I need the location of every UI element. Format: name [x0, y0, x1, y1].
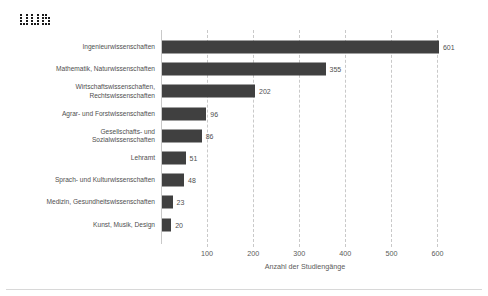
category-label: Medizin, Gesundheitswissenschaften	[10, 198, 155, 206]
x-tick-label: 300	[293, 249, 305, 258]
bar	[162, 85, 255, 98]
bar	[162, 152, 186, 165]
category-label: Sprach- und Kulturwissenschaften	[10, 176, 155, 184]
bar-rows: Ingenieurwissenschaften601Mathematik, Na…	[0, 0, 488, 296]
bar-value-label: 96	[210, 110, 218, 117]
figure-bottom-rule	[6, 289, 482, 290]
bar-value-label: 86	[206, 132, 214, 139]
bar-value-label: 51	[190, 155, 198, 162]
chart-figure: Ingenieurwissenschaften601Mathematik, Na…	[0, 0, 488, 296]
x-tick-mark	[391, 244, 392, 247]
bar	[162, 218, 171, 231]
category-label: Mathematik, Naturwissenschaften	[10, 65, 155, 73]
x-tick-label: 600	[431, 249, 443, 258]
category-label: Agrar- und Forstwissenschaften	[10, 109, 155, 117]
x-tick-label: 200	[247, 249, 259, 258]
category-label: Wirtschaftswissenschaften, Rechtswissens…	[10, 83, 155, 99]
category-label: Ingenieurwissenschaften	[10, 43, 155, 51]
bar-row: Agrar- und Forstwissenschaften96	[0, 103, 488, 125]
bar-row: Mathematik, Naturwissenschaften355	[0, 58, 488, 80]
bar-value-label: 48	[188, 177, 196, 184]
x-tick-label: 400	[339, 249, 351, 258]
bar	[162, 174, 184, 187]
bar	[162, 107, 206, 120]
bar-row: Ingenieurwissenschaften601	[0, 36, 488, 58]
bar-value-label: 601	[443, 44, 455, 51]
bar-value-label: 355	[330, 66, 342, 73]
x-tick-mark	[299, 244, 300, 247]
bar	[162, 63, 326, 76]
x-tick-label: 100	[201, 249, 213, 258]
x-tick-mark	[207, 244, 208, 247]
bar-row: Lehramt51	[0, 147, 488, 169]
bar	[162, 196, 173, 209]
bar	[162, 129, 202, 142]
bar	[162, 41, 439, 54]
x-tick-mark	[253, 244, 254, 247]
x-tick-mark	[345, 244, 346, 247]
bar-row: Sprach- und Kulturwissenschaften48	[0, 169, 488, 191]
bar-row: Kunst, Musik, Design20	[0, 214, 488, 236]
x-tick-mark	[437, 244, 438, 247]
bar-value-label: 23	[177, 199, 185, 206]
bar-value-label: 202	[259, 88, 271, 95]
x-axis-label: Anzahl der Studiengänge	[161, 262, 449, 271]
bar-value-label: 20	[175, 221, 183, 228]
category-label: Lehramt	[10, 154, 155, 162]
category-label: Kunst, Musik, Design	[10, 220, 155, 228]
category-label: Gesellschafts- und Sozialwissenschaften	[10, 128, 155, 144]
bar-row: Gesellschafts- und Sozialwissenschaften8…	[0, 125, 488, 147]
x-tick-label: 500	[385, 249, 397, 258]
bar-row: Medizin, Gesundheitswissenschaften23	[0, 191, 488, 213]
bar-row: Wirtschaftswissenschaften, Rechtswissens…	[0, 80, 488, 102]
